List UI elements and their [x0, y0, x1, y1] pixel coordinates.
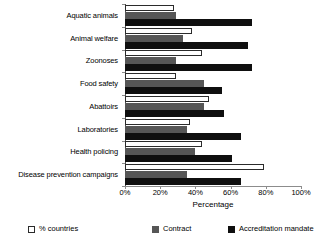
bar-group	[125, 96, 301, 117]
legend-swatch-icon	[28, 226, 35, 233]
legend-swatch-icon	[228, 226, 235, 233]
category-label: Zoonoses	[0, 56, 118, 65]
x-tick-label: 0%	[120, 188, 131, 198]
bar-group	[125, 141, 301, 162]
category-label: Food safety	[0, 79, 118, 88]
bar-group	[125, 28, 301, 49]
legend-item[interactable]: Accreditation mandate	[228, 224, 314, 234]
plot-wrapper: Aquatic animalsAnimal welfareZoonosesFoo…	[0, 0, 323, 190]
bar-group	[125, 119, 301, 140]
bar	[125, 155, 232, 162]
x-tick-label: 80%	[258, 188, 273, 198]
chart-legend: % countriesContractAccreditation mandate	[0, 224, 323, 240]
bar-group	[125, 50, 301, 71]
bar	[125, 178, 241, 185]
bar	[125, 5, 174, 11]
legend-label: Contract	[163, 224, 191, 234]
legend-label: Accreditation mandate	[239, 224, 314, 234]
x-axis-line	[125, 186, 301, 187]
category-label: Animal welfare	[0, 34, 118, 43]
legend-item[interactable]: % countries	[28, 224, 78, 234]
bar-group	[125, 5, 301, 26]
bar	[125, 12, 176, 19]
x-tick-label: 20%	[153, 188, 168, 198]
legend-item[interactable]: Contract	[152, 224, 191, 234]
bar	[125, 28, 192, 34]
bar	[125, 80, 204, 87]
category-label: Abattoirs	[0, 102, 118, 111]
bar	[125, 148, 195, 155]
bar	[125, 57, 176, 64]
bar	[125, 126, 187, 133]
bar	[125, 96, 209, 102]
bar	[125, 103, 204, 110]
bar	[125, 19, 252, 26]
x-tick-label: 60%	[223, 188, 238, 198]
bar	[125, 133, 241, 140]
bar	[125, 64, 252, 71]
plot-area	[125, 4, 301, 186]
bar	[125, 42, 248, 49]
x-tick-label: 100%	[291, 188, 310, 198]
category-label: Laboratories	[0, 125, 118, 134]
x-tick-label: 40%	[188, 188, 203, 198]
legend-label: % countries	[39, 224, 78, 234]
bar	[125, 73, 176, 79]
category-label: Aquatic animals	[0, 11, 118, 20]
bar-group	[125, 164, 301, 185]
bar	[125, 87, 222, 94]
bar	[125, 50, 202, 56]
bar	[125, 35, 183, 42]
category-label: Disease prevention campaigns	[0, 170, 118, 179]
bar	[125, 119, 190, 125]
bar	[125, 171, 187, 178]
legend-swatch-icon	[152, 226, 159, 233]
x-axis-title: Percentage	[125, 200, 301, 210]
category-label: Health policing	[0, 147, 118, 156]
x-axis-tick-labels: 0%20%40%60%80%100%	[125, 188, 301, 200]
bar-group	[125, 73, 301, 94]
bar-chart: Aquatic animalsAnimal welfareZoonosesFoo…	[0, 0, 323, 244]
bar	[125, 110, 224, 117]
category-axis-labels: Aquatic animalsAnimal welfareZoonosesFoo…	[0, 4, 122, 186]
bar	[125, 164, 264, 170]
bar	[125, 141, 202, 147]
